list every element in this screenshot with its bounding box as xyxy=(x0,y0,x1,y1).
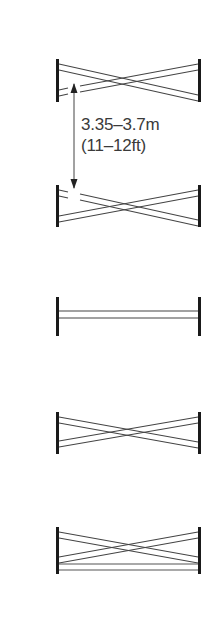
dimension-imperial-label: (11–12ft) xyxy=(81,136,146,156)
crossed-rails xyxy=(59,532,198,563)
left-post xyxy=(56,185,59,227)
left-post xyxy=(56,527,59,574)
left-post xyxy=(56,412,59,454)
gate-2 xyxy=(56,185,201,227)
bottom-rails xyxy=(59,564,198,570)
gate-3 xyxy=(56,297,201,336)
right-post xyxy=(198,297,201,336)
dimension-metric-label: 3.35–3.7m xyxy=(81,115,160,135)
left-post xyxy=(56,297,59,336)
gate-4 xyxy=(56,412,201,454)
right-post xyxy=(198,412,201,454)
gate-1 xyxy=(56,59,201,102)
right-post xyxy=(198,59,201,102)
gate-5 xyxy=(56,527,201,574)
crossed-rails xyxy=(59,190,198,226)
parallel-rails xyxy=(59,311,198,318)
crossed-rails xyxy=(59,417,198,448)
gate-spacing-diagram xyxy=(0,0,222,618)
right-post xyxy=(198,527,201,574)
left-post xyxy=(56,59,59,102)
crossed-rails xyxy=(59,64,198,101)
right-post xyxy=(198,185,201,227)
dimension-arrow xyxy=(71,83,78,189)
